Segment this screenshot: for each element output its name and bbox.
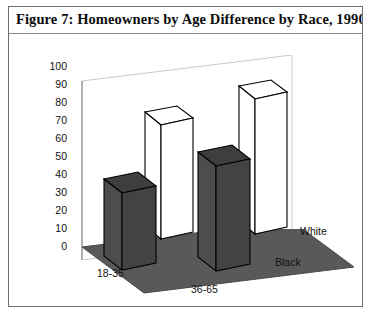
- y-axis-tick-20: 20: [37, 205, 67, 215]
- y-axis-tick-60: 60: [37, 133, 67, 143]
- y-axis-tick-90: 90: [37, 79, 67, 89]
- y-axis-tick-70: 70: [37, 115, 67, 125]
- chart-plot-area: 100 90 80 70 60 50 40 30 20 10 0: [9, 34, 362, 307]
- series-label-white: White: [300, 225, 327, 237]
- y-axis-tick-0: 0: [37, 241, 67, 251]
- x-axis-label-36-65: 36-65: [191, 283, 218, 295]
- series-label-black: Black: [275, 256, 301, 268]
- bar-black-18-35: [104, 162, 164, 274]
- bar-black-36-65: [198, 135, 258, 275]
- y-axis-tick-50: 50: [37, 151, 67, 161]
- y-axis-tick-40: 40: [37, 169, 67, 179]
- y-axis-tick-100: 100: [37, 61, 67, 71]
- y-axis-tick-30: 30: [37, 187, 67, 197]
- y-axis-tick-80: 80: [37, 97, 67, 107]
- figure-frame: Figure 7: Homeowners by Age Difference b…: [8, 6, 363, 307]
- x-axis-label-18-35: 18-35: [97, 267, 124, 279]
- y-axis-tick-10: 10: [37, 223, 67, 233]
- figure-title: Figure 7: Homeowners by Age Difference b…: [16, 11, 360, 28]
